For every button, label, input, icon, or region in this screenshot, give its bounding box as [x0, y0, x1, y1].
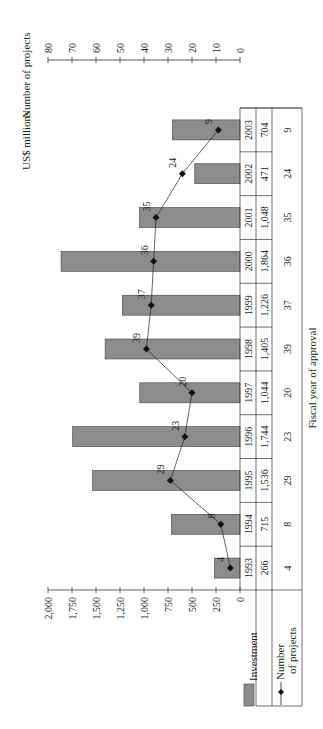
table-investment: 1,405 [259, 338, 270, 361]
y2-axis-title: Number of projects [20, 32, 32, 118]
table-projects: 23 [282, 432, 293, 442]
legend: Investment Number of projects [244, 627, 298, 706]
y-tick-label: 1,500 [91, 597, 102, 620]
table-year: 1999 [243, 295, 254, 315]
table-investment: 1,226 [259, 294, 270, 317]
table-projects: 9 [282, 127, 293, 132]
table-investment: 715 [259, 517, 270, 532]
table-year: 2002 [243, 164, 254, 184]
table-year: 1994 [243, 514, 254, 534]
table-investment: 704 [259, 122, 270, 137]
y-tick-label: 1,250 [115, 597, 126, 620]
y2-tick-label: 80 [43, 43, 54, 53]
table-investment: 266 [259, 561, 270, 576]
chart: 02505007501,0001,2501,5001,7502,000 0102… [0, 0, 323, 729]
investment-axis: 02505007501,0001,2501,5001,7502,000 [43, 587, 246, 620]
table-year: 1995 [243, 470, 254, 490]
table-investment: 1,744 [259, 425, 270, 448]
table-investment: 1,044 [259, 382, 270, 405]
y-tick-label: 2,000 [43, 597, 54, 620]
legend-projects-label-1: Number [274, 644, 286, 680]
bar-1996 [73, 427, 240, 447]
point-label: 23 [170, 421, 181, 431]
table-investment: 471 [259, 166, 270, 181]
x-axis-title: Fiscal year of approval [306, 327, 318, 428]
y-tick-label: 750 [163, 597, 174, 612]
table-year: 2003 [243, 120, 254, 140]
table-projects: 24 [282, 169, 293, 179]
y2-tick-label: 20 [187, 43, 198, 53]
table-investment: 1,536 [259, 469, 270, 492]
point-label: 4 [215, 557, 226, 562]
table-projects: 8 [282, 522, 293, 527]
point-label: 8 [206, 513, 217, 518]
y2-tick-label: 40 [139, 43, 150, 53]
table-year: 1998 [243, 339, 254, 359]
table-investment: 1,048 [259, 206, 270, 229]
bar-2002 [195, 164, 240, 184]
point-label: 35 [141, 202, 152, 212]
point-label: 36 [139, 245, 150, 255]
legend-projects-label-2: of projects [286, 627, 298, 674]
investment-swatch-icon [244, 684, 254, 706]
table-year: 2001 [243, 208, 254, 228]
y-tick-label: 500 [187, 597, 198, 612]
y-tick-label: 0 [235, 597, 246, 602]
point-label: 37 [136, 289, 147, 299]
table-year: 1993 [243, 558, 254, 578]
point-label: 24 [167, 158, 178, 168]
investment-bars [61, 120, 240, 578]
data-table: 199326641994715819951,5362919961,7442319… [240, 108, 302, 706]
table-projects: 39 [282, 344, 293, 354]
y-axis-title: US$ millions [20, 112, 32, 170]
point-label: 39 [131, 333, 142, 343]
bar-1998 [105, 339, 240, 359]
y-tick-label: 250 [211, 597, 222, 612]
table-year: 2000 [243, 251, 254, 271]
projects-axis: 01020304050607080 [43, 43, 246, 63]
y2-tick-label: 0 [235, 48, 246, 53]
y2-tick-label: 60 [91, 43, 102, 53]
y-tick-label: 1,000 [139, 597, 150, 620]
table-projects: 4 [282, 566, 293, 571]
table-projects: 36 [282, 256, 293, 266]
table-projects: 35 [282, 213, 293, 223]
y-tick-label: 1,750 [67, 597, 78, 620]
table-projects: 20 [282, 388, 293, 398]
diamond-marker-icon [278, 689, 284, 695]
table-projects: 29 [282, 475, 293, 485]
y2-tick-label: 50 [115, 43, 126, 53]
table-year: 1996 [243, 427, 254, 447]
table-projects: 37 [282, 300, 293, 310]
table-year: 1997 [243, 383, 254, 403]
y2-tick-label: 70 [67, 43, 78, 53]
legend-investment-label: Investment [247, 632, 259, 681]
point-label: 29 [155, 464, 166, 474]
point-label: 20 [177, 377, 188, 387]
point-label: 9 [203, 119, 214, 124]
y2-tick-label: 30 [163, 43, 174, 53]
y2-tick-label: 10 [211, 43, 222, 53]
table-investment: 1,864 [259, 250, 270, 273]
